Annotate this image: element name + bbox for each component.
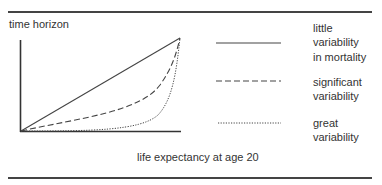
- legend-label: variability: [313, 35, 359, 49]
- legend-label: little: [313, 21, 333, 35]
- bottom-rule: [8, 177, 372, 179]
- legend-label: significant: [313, 75, 362, 89]
- legend-label: great: [313, 116, 338, 130]
- legend-label: variability: [313, 130, 359, 144]
- legend-label: variability: [313, 89, 359, 103]
- x-axis-label: life expectancy at age 20: [137, 150, 259, 164]
- legend-label: in mortality: [313, 50, 366, 64]
- series-little-variability: [21, 38, 180, 131]
